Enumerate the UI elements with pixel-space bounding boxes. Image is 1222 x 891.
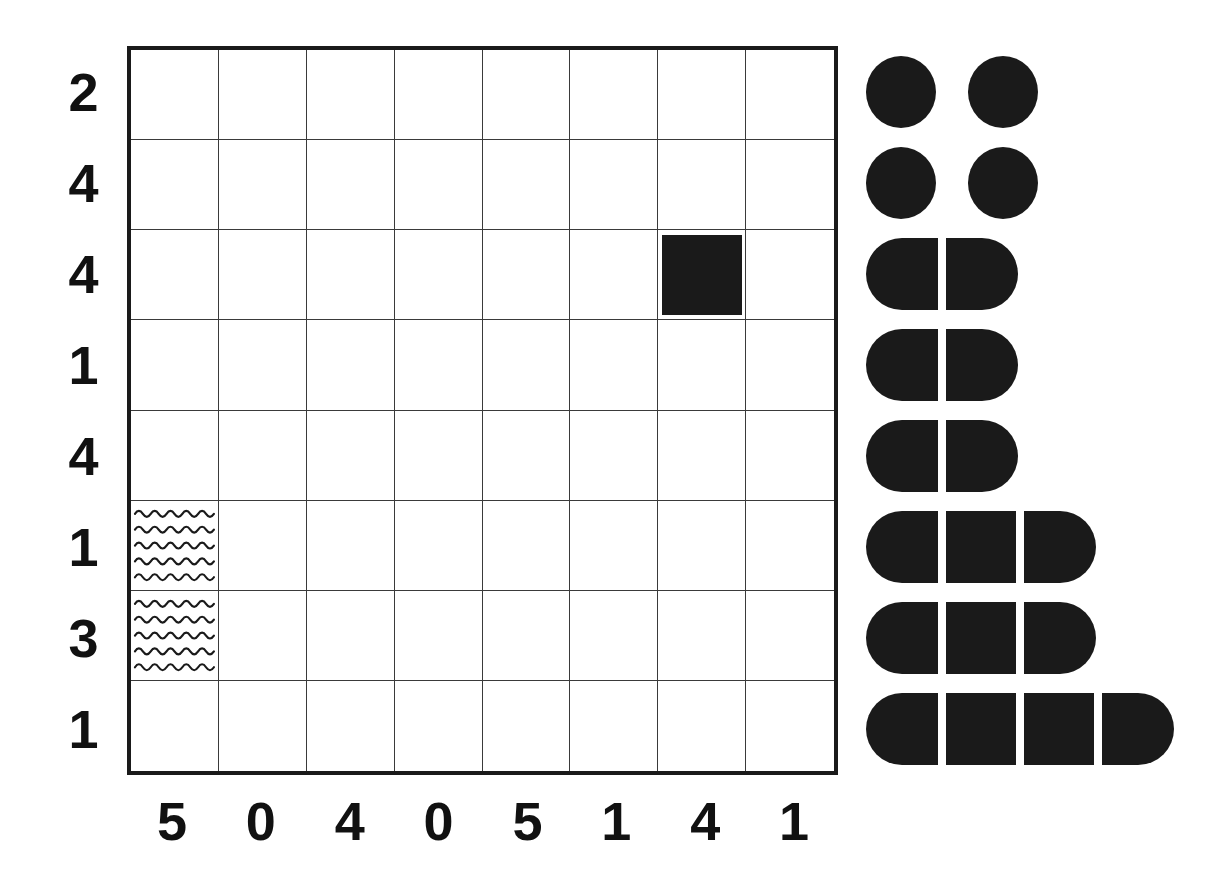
grid-cell-r2-c4[interactable] xyxy=(483,230,571,320)
grid-cell-r2-c1[interactable] xyxy=(219,230,307,320)
puzzle-grid[interactable] xyxy=(127,46,838,775)
grid-cell-r3-c0[interactable] xyxy=(131,320,219,410)
grid-cell-r3-c6[interactable] xyxy=(658,320,746,410)
legend-row-6 xyxy=(866,593,1196,684)
grid-cell-r1-c5[interactable] xyxy=(570,140,658,230)
grid-cell-r0-c1[interactable] xyxy=(219,50,307,140)
grid-cell-r1-c4[interactable] xyxy=(483,140,571,230)
grid-cell-r3-c1[interactable] xyxy=(219,320,307,410)
legend-segment-cap-left-icon xyxy=(866,511,938,583)
row-clue-1: 4 xyxy=(47,137,119,228)
grid-cell-r7-c1[interactable] xyxy=(219,681,307,771)
row-clue-2: 4 xyxy=(47,228,119,319)
column-clue-0: 5 xyxy=(127,786,216,856)
grid-cell-r5-c6[interactable] xyxy=(658,501,746,591)
grid-cell-r6-c7[interactable] xyxy=(746,591,834,681)
grid-cell-r5-c4[interactable] xyxy=(483,501,571,591)
grid-cell-r6-c5[interactable] xyxy=(570,591,658,681)
grid-cell-r7-c0[interactable] xyxy=(131,681,219,771)
grid-cell-r2-c7[interactable] xyxy=(746,230,834,320)
grid-cell-r7-c3[interactable] xyxy=(395,681,483,771)
grid-cell-r3-c5[interactable] xyxy=(570,320,658,410)
column-clue-1: 0 xyxy=(216,786,305,856)
piece-size-legend xyxy=(866,46,1196,775)
row-clue-7: 1 xyxy=(47,684,119,775)
legend-segment-mid-icon xyxy=(1024,693,1094,765)
grid-cell-r5-c7[interactable] xyxy=(746,501,834,591)
grid-cell-r4-c2[interactable] xyxy=(307,411,395,501)
legend-row-5 xyxy=(866,502,1196,593)
grid-cell-r0-c3[interactable] xyxy=(395,50,483,140)
grid-cell-r6-c3[interactable] xyxy=(395,591,483,681)
legend-segment-mid-icon xyxy=(946,602,1016,674)
grid-cell-r7-c6[interactable] xyxy=(658,681,746,771)
grid-cell-r1-c3[interactable] xyxy=(395,140,483,230)
legend-row-4 xyxy=(866,411,1196,502)
puzzle-page: 2 4 4 1 4 1 3 1 5 0 4 0 5 1 4 1 xyxy=(0,0,1222,891)
grid-cell-r5-c2[interactable] xyxy=(307,501,395,591)
grid-cell-r6-c6[interactable] xyxy=(658,591,746,681)
column-clue-7: 1 xyxy=(749,786,838,856)
wavy-hatch-marker xyxy=(131,591,218,680)
grid-cell-r4-c6[interactable] xyxy=(658,411,746,501)
grid-cell-r4-c4[interactable] xyxy=(483,411,571,501)
grid-cell-r1-c6[interactable] xyxy=(658,140,746,230)
column-clue-4: 5 xyxy=(483,786,572,856)
legend-segment-cap-right-icon xyxy=(946,420,1018,492)
wavy-hatch-marker xyxy=(131,501,218,590)
grid-cell-r1-c7[interactable] xyxy=(746,140,834,230)
grid-cell-r5-c3[interactable] xyxy=(395,501,483,591)
grid-cell-r7-c5[interactable] xyxy=(570,681,658,771)
grid-cell-r6-c0[interactable] xyxy=(131,591,219,681)
legend-segment-cap-left-icon xyxy=(866,420,938,492)
grid-cell-r2-c0[interactable] xyxy=(131,230,219,320)
grid-cell-r4-c7[interactable] xyxy=(746,411,834,501)
grid-cell-r4-c0[interactable] xyxy=(131,411,219,501)
legend-gap xyxy=(944,56,960,128)
grid-cell-r0-c2[interactable] xyxy=(307,50,395,140)
grid-cell-r2-c2[interactable] xyxy=(307,230,395,320)
legend-segment-circle-icon xyxy=(968,56,1038,128)
row-clue-4: 4 xyxy=(47,411,119,502)
grid-cell-r2-c6[interactable] xyxy=(658,230,746,320)
legend-row-0 xyxy=(866,46,1196,137)
grid-cell-r3-c3[interactable] xyxy=(395,320,483,410)
grid-cell-r3-c7[interactable] xyxy=(746,320,834,410)
filled-square-marker xyxy=(662,235,742,315)
grid-cell-r6-c4[interactable] xyxy=(483,591,571,681)
grid-cell-r6-c1[interactable] xyxy=(219,591,307,681)
legend-segment-mid-icon xyxy=(946,511,1016,583)
grid-cell-r3-c2[interactable] xyxy=(307,320,395,410)
grid-cell-r7-c2[interactable] xyxy=(307,681,395,771)
grid-cell-r1-c1[interactable] xyxy=(219,140,307,230)
grid-cell-r5-c5[interactable] xyxy=(570,501,658,591)
legend-gap xyxy=(944,147,960,219)
grid-cell-r0-c4[interactable] xyxy=(483,50,571,140)
grid-cell-r1-c0[interactable] xyxy=(131,140,219,230)
legend-row-2 xyxy=(866,228,1196,319)
row-clue-column: 2 4 4 1 4 1 3 1 xyxy=(47,46,119,775)
grid-cell-r4-c1[interactable] xyxy=(219,411,307,501)
grid-cell-r3-c4[interactable] xyxy=(483,320,571,410)
column-clue-5: 1 xyxy=(571,786,660,856)
legend-row-1 xyxy=(866,137,1196,228)
grid-cell-r4-c5[interactable] xyxy=(570,411,658,501)
grid-cell-r0-c0[interactable] xyxy=(131,50,219,140)
grid-cell-r5-c1[interactable] xyxy=(219,501,307,591)
grid-cell-r4-c3[interactable] xyxy=(395,411,483,501)
grid-cell-r2-c3[interactable] xyxy=(395,230,483,320)
grid-cell-r6-c2[interactable] xyxy=(307,591,395,681)
grid-cell-r7-c7[interactable] xyxy=(746,681,834,771)
row-clue-6: 3 xyxy=(47,593,119,684)
row-clue-5: 1 xyxy=(47,502,119,593)
grid-cell-r7-c4[interactable] xyxy=(483,681,571,771)
grid-cell-r0-c7[interactable] xyxy=(746,50,834,140)
grid-cell-r1-c2[interactable] xyxy=(307,140,395,230)
legend-segment-circle-icon xyxy=(866,147,936,219)
grid-cell-r0-c6[interactable] xyxy=(658,50,746,140)
grid-cell-r0-c5[interactable] xyxy=(570,50,658,140)
grid-cell-r5-c0[interactable] xyxy=(131,501,219,591)
row-clue-3: 1 xyxy=(47,319,119,410)
grid-cell-r2-c5[interactable] xyxy=(570,230,658,320)
legend-row-3 xyxy=(866,319,1196,410)
